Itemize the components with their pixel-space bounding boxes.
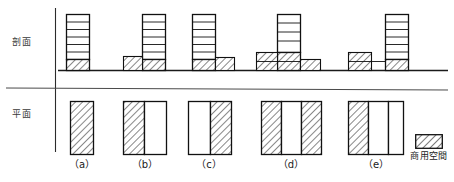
plan-d-band-empty bbox=[282, 102, 302, 155]
podium-c-base bbox=[193, 60, 216, 71]
row-label-section: 剖面 bbox=[12, 38, 31, 47]
case-label-b: （b） bbox=[122, 160, 168, 170]
section-case-d bbox=[257, 15, 321, 71]
tower-d bbox=[278, 15, 301, 53]
plan-case-c bbox=[189, 102, 232, 155]
plan-e-band-hatched bbox=[349, 102, 369, 155]
section-case-b bbox=[124, 15, 166, 71]
section-case-a bbox=[67, 15, 90, 71]
legend: 商用空間 bbox=[404, 134, 454, 161]
plan-case-d bbox=[262, 102, 322, 155]
plan-case-e bbox=[349, 102, 404, 155]
podium-e-base bbox=[386, 60, 409, 71]
section-case-e bbox=[349, 15, 409, 71]
legend-label: 商用空間 bbox=[410, 152, 448, 161]
row-label-plan: 平面 bbox=[12, 110, 31, 119]
podium-a-base bbox=[67, 60, 90, 71]
plan-e-band-empty-1 bbox=[369, 102, 389, 155]
podium-b-left bbox=[124, 57, 143, 71]
case-label-a: （a） bbox=[59, 160, 105, 170]
section-plan-divider bbox=[6, 88, 448, 90]
case-label-c: （c） bbox=[186, 160, 232, 170]
plan-case-a bbox=[71, 102, 94, 155]
plan-b-band-hatched bbox=[124, 102, 145, 155]
podium-c-right bbox=[216, 58, 235, 71]
plan-e-band-empty-2 bbox=[389, 102, 404, 155]
plan-c-band-hatched bbox=[211, 102, 232, 155]
hatch-swatch-icon bbox=[415, 134, 443, 149]
plan-case-b bbox=[124, 102, 167, 155]
case-label-e: （e） bbox=[353, 160, 399, 170]
podium-d-right bbox=[301, 60, 321, 71]
plan-c-band-empty bbox=[189, 102, 211, 155]
podium-b-base bbox=[143, 60, 166, 71]
case-label-d: （d） bbox=[268, 160, 314, 170]
architecture-diagram: 剖面 平面 （a） （b） （c） （d） （e） 商用空間 bbox=[0, 0, 454, 182]
section-case-c bbox=[193, 15, 235, 71]
plan-a-band-hatched bbox=[71, 102, 94, 155]
plan-b-band-empty bbox=[145, 102, 167, 155]
diagram-canvas bbox=[0, 0, 454, 182]
plan-d-band-hatched-left bbox=[262, 102, 282, 155]
plan-d-band-hatched-right bbox=[302, 102, 322, 155]
